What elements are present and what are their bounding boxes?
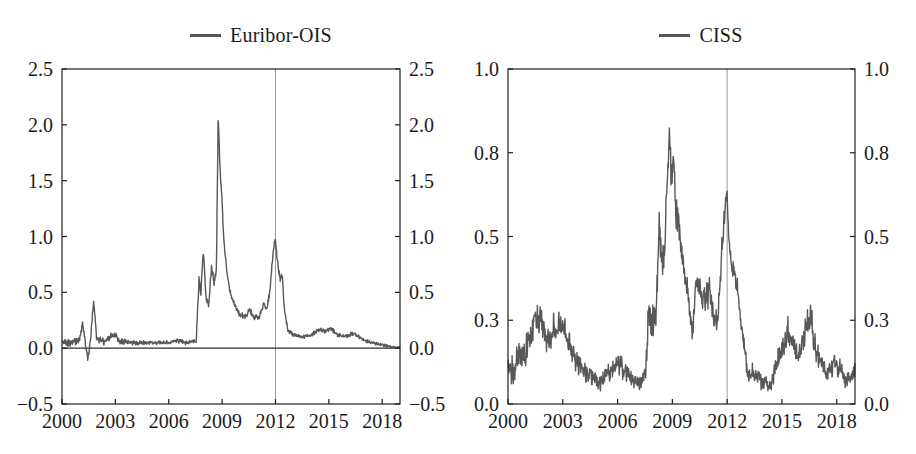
- series-line-0: [508, 128, 855, 391]
- y-tick-label-left: 0.5: [28, 281, 53, 303]
- y-tick-label-left: 1.5: [28, 170, 53, 192]
- x-tick-label: 2000: [488, 410, 528, 432]
- x-tick-label: 2012: [707, 410, 747, 432]
- y-tick-label-left: 1.0: [474, 58, 499, 80]
- x-tick-label: 2003: [543, 410, 583, 432]
- ciss-plot: 0.00.00.30.30.50.50.80.81.01.02000200320…: [458, 0, 916, 454]
- y-tick-label-right: 0.0: [409, 337, 434, 359]
- y-tick-label-right: 0.8: [864, 142, 889, 164]
- x-tick-label: 2003: [95, 410, 135, 432]
- chart-panel-euribor-ois: Euribor-OIS −0.5−0.50.00.00.50.51.01.01.…: [0, 0, 458, 454]
- y-tick-label-left: 0.8: [474, 142, 499, 164]
- y-tick-label-right: 0.3: [864, 309, 889, 331]
- x-tick-label: 2015: [309, 410, 349, 432]
- series-line-0: [62, 121, 400, 361]
- x-tick-label: 2012: [255, 410, 295, 432]
- x-tick-label: 2009: [202, 410, 242, 432]
- y-tick-label-right: 0.5: [409, 281, 434, 303]
- x-tick-label: 2006: [149, 410, 189, 432]
- y-tick-label-left: 2.5: [28, 58, 53, 80]
- chart-panel-ciss: CISS 0.00.00.30.30.50.50.80.81.01.020002…: [458, 0, 916, 454]
- y-tick-label-right: 0.5: [864, 226, 889, 248]
- dual-line-chart-figure: Euribor-OIS −0.5−0.50.00.00.50.51.01.01.…: [0, 0, 916, 454]
- y-tick-label-right: 1.0: [864, 58, 889, 80]
- y-tick-label-right: 1.5: [409, 170, 434, 192]
- x-tick-label: 2018: [362, 410, 402, 432]
- x-tick-label: 2009: [652, 410, 692, 432]
- y-tick-label-right: 0.0: [864, 393, 889, 415]
- y-tick-label-left: 2.0: [28, 114, 53, 136]
- y-tick-label-left: 0.5: [474, 226, 499, 248]
- y-tick-label-left: 1.0: [28, 226, 53, 248]
- euribor-ois-plot: −0.5−0.50.00.00.50.51.01.01.51.52.02.02.…: [0, 0, 458, 454]
- x-tick-label: 2006: [598, 410, 638, 432]
- y-tick-label-right: 2.5: [409, 58, 434, 80]
- x-tick-label: 2000: [42, 410, 82, 432]
- plot-frame: [62, 69, 400, 404]
- y-tick-label-right: −0.5: [409, 393, 445, 415]
- plot-frame: [508, 69, 855, 404]
- y-tick-label-right: 1.0: [409, 226, 434, 248]
- y-tick-label-left: 0.3: [474, 309, 499, 331]
- x-tick-label: 2015: [762, 410, 802, 432]
- y-tick-label-right: 2.0: [409, 114, 434, 136]
- x-tick-label: 2018: [817, 410, 857, 432]
- y-tick-label-left: 0.0: [28, 337, 53, 359]
